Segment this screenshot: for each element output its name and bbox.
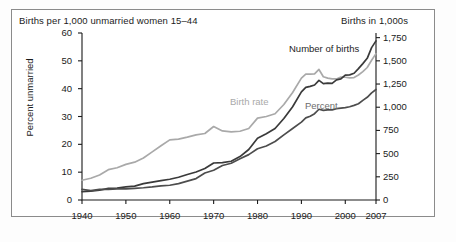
x-tick-label: 1940 [62, 210, 102, 221]
y-tick-label-left: 30 [50, 111, 72, 122]
annotation-percent: Percent [305, 100, 338, 111]
axes-group [82, 33, 376, 200]
x-tick-label: 2007 [356, 210, 396, 221]
y-tick-label-left: 60 [50, 27, 72, 38]
y-tick-label-right: 0 [383, 194, 417, 205]
series-line-number-of-births [82, 41, 376, 192]
annotation-number-of-births: Number of births [289, 43, 359, 54]
y-tick-label-left: 40 [50, 83, 72, 94]
x-tick-label: 1990 [281, 210, 321, 221]
annotation-birth-rate: Birth rate [230, 96, 269, 107]
y-tick-label-right: 1,250 [383, 78, 417, 89]
figure-container: Births per 1,000 unmarried women 15–44 B… [0, 0, 456, 242]
y-tick-label-right: 1,750 [383, 32, 417, 43]
y-tick-label-left: 10 [50, 166, 72, 177]
y-tick-label-right: 750 [383, 124, 417, 135]
y-tick-label-right: 500 [383, 148, 417, 159]
axis-spines [82, 33, 376, 200]
x-tick-label: 1960 [150, 210, 190, 221]
x-tick-label: 1950 [106, 210, 146, 221]
y-tick-label-right: 1,500 [383, 55, 417, 66]
y-tick-label-left: 0 [50, 194, 72, 205]
x-tick-label: 1970 [194, 210, 234, 221]
y-tick-label-right: 250 [383, 171, 417, 182]
y-tick-label-left: 50 [50, 55, 72, 66]
tick-marks-group [78, 33, 380, 204]
y-tick-label-left: 20 [50, 138, 72, 149]
y-tick-label-right: 1,000 [383, 101, 417, 112]
x-tick-label: 1980 [238, 210, 278, 221]
data-series-group [82, 41, 376, 192]
